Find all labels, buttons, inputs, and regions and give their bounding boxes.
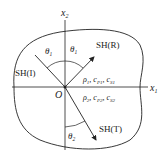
origin-label: O xyxy=(55,89,62,100)
incident-angle-arc xyxy=(47,61,65,68)
reflected-angle-arc xyxy=(65,61,83,68)
origin-point xyxy=(64,86,67,89)
incident-ray xyxy=(35,55,65,87)
transmitted-angle-label: θ2 xyxy=(68,131,75,142)
x1-label: x1 xyxy=(149,82,157,94)
interface-diagram: x2 x1 O SH(I) SH(R) SH(T) θ1 θ1 θ2 ρ1, c… xyxy=(0,0,166,157)
incident-angle-label: θ1 xyxy=(45,46,52,57)
upper-medium-properties: ρ1, cP1, cS1 xyxy=(82,75,115,85)
x2-label: x2 xyxy=(60,7,68,19)
reflected-angle-label: θ1 xyxy=(70,44,77,55)
lower-medium-properties: ρ2, cP2, cS2 xyxy=(82,93,116,103)
incident-wave-label: SH(I) xyxy=(15,68,36,78)
transmitted-wave-label: SH(T) xyxy=(99,124,122,134)
reflected-wave-label: SH(R) xyxy=(96,40,120,50)
transmitted-angle-arc xyxy=(65,121,85,127)
domain-boundary xyxy=(14,29,143,149)
